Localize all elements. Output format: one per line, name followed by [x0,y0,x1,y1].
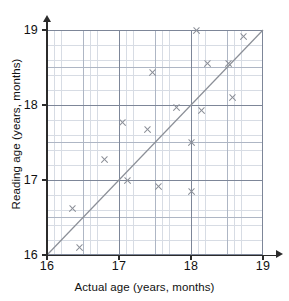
y-axis-title: Reading age (years, months) [10,34,22,234]
data-point [143,125,152,134]
x-tick-label-17: 17 [112,259,126,273]
data-point [118,118,127,127]
y-tick-17 [42,179,47,180]
data-point [123,176,132,185]
y-tick-16 [42,254,47,255]
data-point [203,59,212,68]
x-tick-label-19: 19 [256,259,270,273]
y-tick-19 [42,29,47,30]
x-axis-arrow-icon [276,250,283,258]
data-point [228,93,237,102]
x-axis-title: Actual age (years, months) [0,281,289,293]
data-point [68,204,77,213]
y-tick-label-16: 16 [18,248,38,262]
data-point [75,243,84,252]
scatter-plot-figure: 16171819 16171819 Actual age (years, mon… [0,0,289,301]
x-tick-label-16: 16 [40,259,54,273]
data-point [224,59,233,68]
y-axis-arrow-icon [43,15,51,22]
data-point [187,138,196,147]
y-axis-line [46,22,48,255]
data-point [239,32,248,41]
x-axis-line [47,255,278,257]
data-point [197,106,206,115]
data-point [154,182,163,191]
data-point [172,103,181,112]
x-tick-label-18: 18 [184,259,198,273]
data-point [100,155,109,164]
plot-area [47,30,263,255]
data-point [192,26,201,35]
data-point [148,68,157,77]
data-point [187,187,196,196]
y-tick-18 [42,104,47,105]
